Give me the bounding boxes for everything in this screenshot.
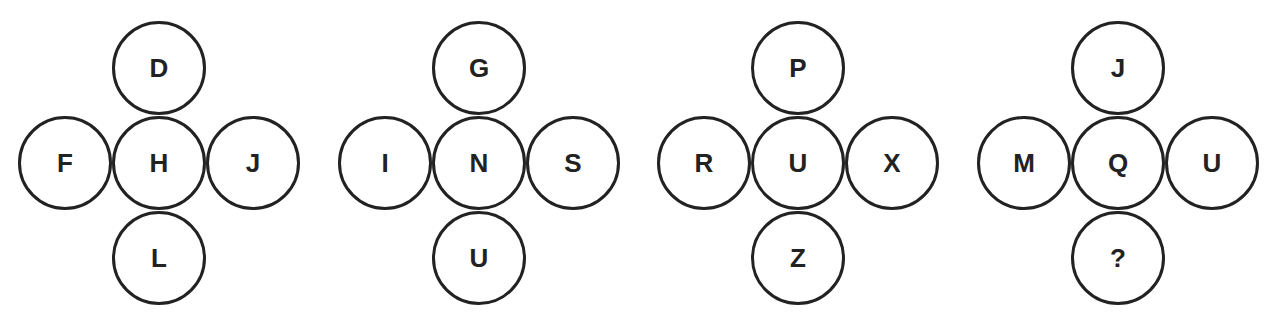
letter: H	[150, 150, 169, 176]
circle-right: J	[206, 116, 300, 210]
circle-center: H	[112, 116, 206, 210]
circle-bottom: U	[432, 211, 526, 305]
circle-bottom-unknown: ?	[1071, 211, 1165, 305]
circle-top: G	[432, 21, 526, 115]
letter: U	[789, 150, 808, 176]
circle-left: M	[977, 116, 1071, 210]
letter: G	[469, 55, 489, 81]
circle-right: X	[845, 116, 939, 210]
letter: Q	[1108, 150, 1128, 176]
letter: X	[883, 150, 900, 176]
cluster-1: D F H J L	[7, 0, 307, 327]
circle-center: Q	[1071, 116, 1165, 210]
letter: I	[381, 150, 388, 176]
circle-top: D	[112, 21, 206, 115]
circle-top: P	[751, 21, 845, 115]
circle-left: R	[657, 116, 751, 210]
circle-center: N	[432, 116, 526, 210]
circle-center: U	[751, 116, 845, 210]
letter: U	[1203, 150, 1222, 176]
letter: J	[246, 150, 260, 176]
circle-right: U	[1165, 116, 1259, 210]
letter: P	[789, 55, 806, 81]
circle-left: I	[338, 116, 432, 210]
letter: D	[150, 55, 169, 81]
letter: J	[1111, 55, 1125, 81]
letter: L	[151, 245, 167, 271]
letter: Z	[790, 245, 806, 271]
letter: S	[564, 150, 581, 176]
cluster-4: J M Q U ?	[966, 0, 1266, 327]
circle-top: J	[1071, 21, 1165, 115]
circle-right: S	[526, 116, 620, 210]
circle-bottom: L	[112, 211, 206, 305]
letter: N	[470, 150, 489, 176]
cluster-2: G I N S U	[327, 0, 627, 327]
letter: M	[1013, 150, 1035, 176]
letter: U	[470, 245, 489, 271]
letter: F	[57, 150, 73, 176]
question-mark: ?	[1110, 245, 1126, 271]
cluster-3: P R U X Z	[646, 0, 946, 327]
letter: R	[695, 150, 714, 176]
circle-left: F	[18, 116, 112, 210]
circle-bottom: Z	[751, 211, 845, 305]
